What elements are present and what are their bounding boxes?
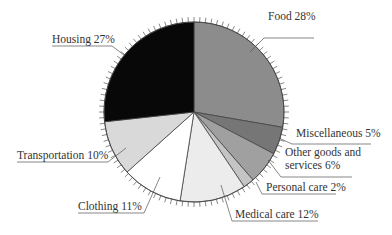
slice-label: services 6% [285,159,341,171]
slice-label: Personal care 2% [266,181,346,193]
pie-slice-housing [104,22,194,122]
slice-label: Clothing 11% [78,200,142,213]
slice-label: Transportation 10% [17,149,109,162]
pie-slices [104,22,284,202]
slice-label: Other goods and [285,146,361,159]
slice-label: Medical care 12% [235,208,319,220]
pie-chart: Food 28%Miscellaneous 5%Other goods ands… [0,0,392,235]
slice-label: Food 28% [268,10,316,22]
leader-line [52,46,124,55]
slice-label: Miscellaneous 5% [296,127,381,139]
slice-label: Housing 27% [52,33,115,46]
